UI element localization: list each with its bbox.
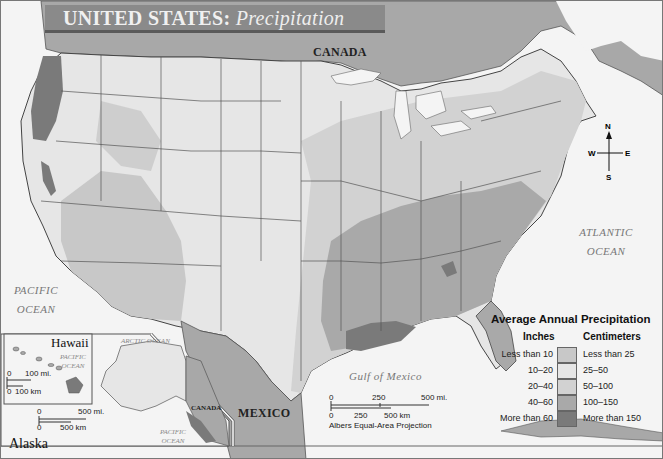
map-title-bar: UNITED STATES: Precipitation [45,5,385,33]
legend-swatch [557,411,577,427]
label-pacific-ocean-hawaii: PACIFIC OCEAN [57,353,89,371]
alaska-title: Alaska [9,436,48,452]
legend-cm: More than 150 [583,413,641,423]
alaska-scale-mi-start: 0 [37,407,41,416]
legend-row: Less than 10 Less than 25 [491,347,663,363]
scale-mi-0: 0 [329,393,333,402]
legend-cm: 25–50 [583,365,608,375]
label-pacific-ocean: PACIFIC OCEAN [6,281,66,319]
label-canada: CANADA [313,45,367,60]
precipitation-legend: Average Annual Precipitation Inches Cent… [491,313,663,433]
compass-west: W [588,149,596,158]
legend-inches: More than 60 [500,413,553,423]
alaska-scale-mi-end: 500 mi. [78,407,104,416]
scale-km-0: 0 [329,411,333,420]
scale-km-250: 250 [354,411,367,420]
legend-swatch [557,347,577,363]
label-arctic-ocean: ARCTIC OCEAN [121,337,170,346]
hawaii-scale-km-end: 100 km [15,387,41,396]
compass-south: S [606,173,611,182]
compass-north: N [605,122,611,131]
legend-swatch [557,395,577,411]
legend-row: 20–40 50–100 [491,379,663,395]
map-subtitle: Precipitation [236,7,345,29]
legend-inches: 10–20 [528,365,553,375]
legend-row: 10–20 25–50 [491,363,663,379]
hawaii-title: Hawaii [51,335,89,351]
legend-cm-header: Centimeters [583,331,641,342]
legend-swatch [557,363,577,379]
label-atlantic-ocean: ATLANTIC OCEAN [571,223,641,261]
legend-inches: Less than 10 [501,349,553,359]
label-mexico: MEXICO [238,406,290,421]
label-pacific-ocean-alaska: PACIFIC OCEAN [153,428,193,446]
hawaii-scale-mi-end: 100 mi. [25,369,51,378]
legend-swatch [557,379,577,395]
scale-mi-250: 250 [372,393,385,402]
legend-cm: Less than 25 [583,349,635,359]
projection-note: Albers Equal-Area Projection [329,421,432,430]
legend-cm: 50–100 [583,381,613,391]
scale-km-500: 500 km [384,411,410,420]
hawaii-scale-km-start: 0 [7,387,11,396]
legend-inches-header: Inches [523,331,555,342]
legend-inches: 40–60 [528,397,553,407]
hawaii-scale-mi-start: 0 [7,369,11,378]
scale-mi-500: 500 mi. [421,393,447,402]
map-title: UNITED STATES: Precipitation [63,7,344,30]
alaska-scale-km-start: 0 [37,423,41,432]
legend-row: More than 60 More than 150 [491,411,663,427]
label-canada-inset: CANADA [191,404,221,412]
legend-title: Average Annual Precipitation [491,313,651,325]
legend-row: 40–60 100–150 [491,395,663,411]
alaska-scale-km-end: 500 km [60,423,86,432]
legend-inches: 20–40 [528,381,553,391]
label-gulf-of-mexico: Gulf of Mexico [349,367,422,386]
compass-east: E [625,149,630,158]
precipitation-map: UNITED STATES: Precipitation CANADA MEXI… [0,0,663,459]
legend-cm: 100–150 [583,397,618,407]
